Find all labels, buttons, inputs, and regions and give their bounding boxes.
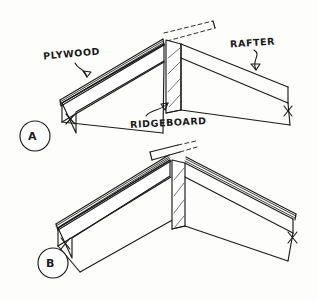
ridgeboard-a [166, 40, 181, 113]
rafter-right-b [185, 163, 293, 261]
leader-plywood-a [75, 63, 91, 77]
plywood-sheathing-right-b [185, 157, 296, 220]
phantom-dashed-extension-a [164, 21, 215, 41]
phantom-dashed-extension-b [150, 141, 197, 160]
break-marks-b [61, 232, 297, 249]
rafter-right-a [181, 44, 290, 125]
ridgeboard-b [172, 160, 185, 229]
leader-rafter-a [251, 50, 260, 70]
detail-tag-b-letter: B [46, 257, 54, 270]
leader-ridgeboard-a [146, 103, 168, 116]
detail-b-group [38, 141, 297, 278]
drawing-canvas: .ln { fill:none; stroke:#1b1b1b; stroke-… [0, 0, 318, 300]
detail-tag-a-letter: A [28, 130, 37, 143]
